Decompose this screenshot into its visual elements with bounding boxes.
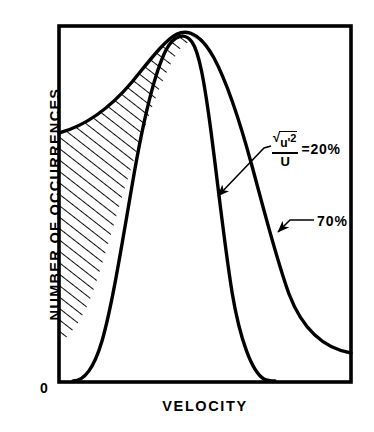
leader-arrow-70-percent: [278, 220, 314, 232]
formula-radicand-base: u': [280, 136, 290, 150]
formula-denominator: U: [281, 154, 290, 168]
formula-equals-value: =20%: [301, 141, 340, 157]
origin-label: 0: [40, 380, 48, 396]
x-axis-label: VELOCITY: [58, 398, 352, 414]
formula-radicand-exponent: 2: [290, 132, 296, 144]
radical-group: √ u'2: [273, 131, 297, 151]
formula-label-20-percent: √ u'2 U =20%: [272, 131, 341, 168]
formula-radicand: u'2: [279, 131, 297, 151]
formula-fraction: √ u'2 U: [272, 131, 298, 168]
hatched-region: [59, 32, 199, 345]
leader-arrow-20-percent: [218, 146, 271, 196]
formula-numerator: √ u'2: [272, 131, 298, 152]
y-axis-label: NUMBER OF OCCURRENCES: [47, 54, 63, 354]
turbulence-distribution-figure: NUMBER OF OCCURRENCES VELOCITY 0 √ u'2 U…: [0, 0, 374, 432]
curve-label-70-percent: 70%: [317, 213, 348, 229]
